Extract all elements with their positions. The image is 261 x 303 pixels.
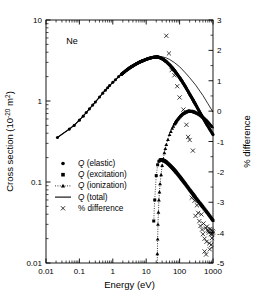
series-pct-difference-point bbox=[181, 108, 185, 112]
series-q-ionization-point bbox=[156, 222, 160, 225]
series-q-elastic-point bbox=[88, 107, 91, 110]
series-q-elastic-point bbox=[73, 124, 76, 127]
series-q-elastic-point bbox=[211, 133, 214, 136]
series-q-elastic-point bbox=[94, 101, 97, 104]
x-tick-label: 1 bbox=[111, 267, 116, 276]
series-q-elastic-point bbox=[108, 84, 111, 87]
series-q-elastic-line bbox=[57, 57, 213, 137]
x-tick-label: 100 bbox=[173, 267, 187, 276]
legend-item-label: Q (excitation) bbox=[78, 170, 127, 179]
series-q-excitation-point bbox=[152, 220, 155, 223]
x-tick-label: 1000 bbox=[204, 267, 222, 276]
series-q-ionization-point bbox=[157, 210, 161, 213]
cross-section-plot: 0.010.111010010000.010.1110-5-4-3-2-1012… bbox=[0, 0, 261, 303]
series-q-ionization-point bbox=[156, 237, 160, 240]
series-q-ionization-point bbox=[159, 173, 163, 176]
yright-axis-label: % difference bbox=[241, 115, 252, 168]
series-q-elastic-point bbox=[98, 95, 101, 98]
series-q-excitation-line bbox=[154, 160, 213, 221]
legend-marker-triangle-icon bbox=[61, 184, 65, 188]
series-q-excitation-point bbox=[212, 219, 215, 222]
series-pct-difference-point bbox=[198, 224, 202, 228]
series-q-elastic-point bbox=[104, 89, 107, 92]
series-pct-difference-point bbox=[184, 123, 188, 127]
series-q-excitation-point bbox=[155, 174, 158, 177]
series-q-elastic-point bbox=[85, 111, 88, 114]
series-q-ionization-point bbox=[155, 252, 159, 255]
series-q-ionization-point bbox=[158, 190, 162, 193]
series-q-ionization-point bbox=[162, 151, 166, 154]
series-q-ionization-point bbox=[169, 130, 173, 133]
series-q-ionization-point bbox=[157, 198, 161, 201]
series-q-elastic-point bbox=[117, 75, 120, 78]
legend-item-label: Q (total) bbox=[78, 193, 108, 202]
yright-tick-label: -1 bbox=[217, 138, 225, 147]
yright-tick-label: 0 bbox=[217, 107, 222, 116]
series-q-elastic-point bbox=[68, 128, 71, 131]
series-pct-difference-point bbox=[175, 84, 179, 88]
yleft-tick-label: 1 bbox=[38, 97, 43, 106]
series-pct-difference-point bbox=[178, 95, 182, 99]
x-tick-label: 0.1 bbox=[74, 267, 86, 276]
yleft-tick-label: 0.01 bbox=[26, 259, 42, 268]
yright-tick-label: 3 bbox=[217, 16, 222, 25]
series-pct-difference-point bbox=[195, 203, 199, 207]
legend-item-label: Q (ionization) bbox=[78, 181, 127, 190]
x-axis-label: Energy (eV) bbox=[104, 279, 155, 290]
series-pct-difference-point bbox=[208, 247, 212, 251]
series-pct-difference-point bbox=[191, 149, 195, 153]
legend-marker-square-icon bbox=[61, 173, 65, 177]
yright-tick-label: 1 bbox=[217, 77, 222, 86]
series-pct-difference-point bbox=[167, 51, 171, 55]
series-pct-difference-point bbox=[172, 73, 176, 77]
yright-tick-label: -5 bbox=[217, 259, 225, 268]
series-q-elastic-point bbox=[114, 78, 117, 81]
x-tick-label: 0.01 bbox=[38, 267, 54, 276]
series-pct-difference-point bbox=[164, 34, 168, 38]
series-q-elastic-point bbox=[101, 92, 104, 95]
yright-tick-label: -4 bbox=[217, 229, 225, 238]
series-q-elastic-point bbox=[78, 119, 81, 122]
series-pct-difference-point bbox=[201, 232, 205, 236]
series-pct-difference-point bbox=[200, 227, 204, 231]
series-pct-difference-point bbox=[197, 219, 201, 223]
series-q-ionization-point bbox=[158, 182, 162, 185]
yright-tick-label: -2 bbox=[217, 168, 225, 177]
series-q-ionization-point bbox=[164, 143, 168, 146]
yright-tick-label: 2 bbox=[217, 46, 222, 55]
legend-item-label: % difference bbox=[78, 204, 124, 213]
legend-item-label: Q (elastic) bbox=[78, 159, 116, 168]
series-q-excitation-point bbox=[153, 198, 156, 201]
series-q-elastic-point bbox=[82, 115, 85, 118]
yleft-tick-label: 0.1 bbox=[31, 178, 43, 187]
series-q-ionization-point bbox=[163, 147, 167, 150]
yright-tick-label: -3 bbox=[217, 198, 225, 207]
plot-annotation: Ne bbox=[66, 36, 78, 46]
series-q-elastic-point bbox=[111, 81, 114, 84]
series-q-elastic-point bbox=[56, 136, 59, 139]
x-tick-label: 10 bbox=[142, 267, 151, 276]
figure-container: 0.010.111010010000.010.1110-5-4-3-2-1012… bbox=[0, 0, 261, 303]
yleft-axis-label: Cross section (10-20 m2) bbox=[4, 91, 16, 192]
legend-marker-cross-icon bbox=[61, 206, 65, 210]
series-pct-difference-point bbox=[205, 224, 209, 228]
series-q-ionization-point bbox=[166, 138, 170, 141]
legend-marker-circle-icon bbox=[61, 162, 65, 166]
yleft-tick-label: 10 bbox=[33, 16, 42, 25]
series-q-excitation-point bbox=[156, 163, 159, 166]
series-q-elastic-point bbox=[91, 104, 94, 107]
series-q-ionization-point bbox=[168, 133, 172, 136]
series-q-ionization-point bbox=[160, 164, 164, 167]
